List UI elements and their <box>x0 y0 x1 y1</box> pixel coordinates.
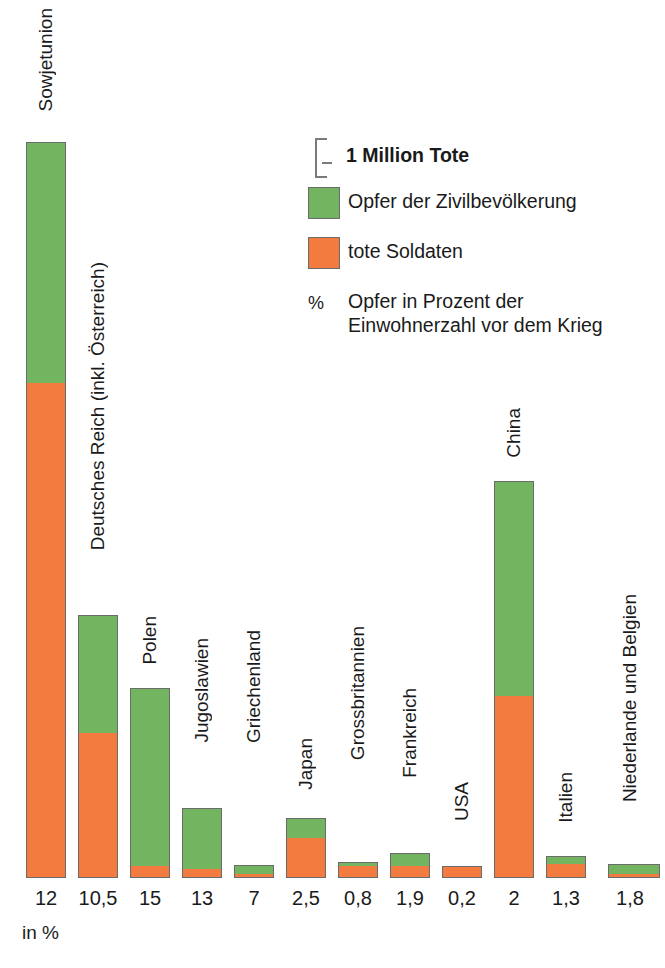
legend-label-civilian: Opfer der Zivilbevölkerung <box>348 189 577 213</box>
legend-swatch-soldier <box>308 237 340 269</box>
bar-segment-soldier <box>442 866 482 878</box>
legend: 1 Million Tote Opfer der Zivilbevölkerun… <box>308 133 658 343</box>
bar-deutsches-reich <box>78 615 118 878</box>
percent-label-frankreich: 1,9 <box>384 887 436 910</box>
category-label-grossbritannien: Grossbritannien <box>348 626 367 760</box>
bar-segment-civilian <box>608 864 660 874</box>
bar-segment-civilian <box>234 865 274 874</box>
bar-japan <box>286 818 326 878</box>
legend-label-percent-line1: Opfer in Prozent der <box>348 289 524 313</box>
percent-label-japan: 2,5 <box>280 887 332 910</box>
percent-label-niederlande-belgien: 1,8 <box>604 887 656 910</box>
bar-segment-soldier <box>130 866 170 878</box>
category-label-niederlande-belgien: Niederlande und Belgien <box>620 594 639 802</box>
legend-row-scale: 1 Million Tote <box>308 133 658 181</box>
bar-segment-civilian <box>286 818 326 838</box>
bar-china <box>494 481 534 878</box>
bar-segment-soldier <box>494 696 534 878</box>
category-label-usa: USA <box>452 782 471 821</box>
percent-label-polen: 15 <box>124 887 176 910</box>
legend-row-percent: % Opfer in Prozent der Einwohnerzahl vor… <box>308 287 658 343</box>
bar-jugoslawien <box>182 808 222 878</box>
percent-label-italien: 1,3 <box>540 887 592 910</box>
bar-italien <box>546 856 586 878</box>
bar-segment-civilian <box>78 615 118 733</box>
bar-niederlande-belgien <box>608 864 660 878</box>
bar-segment-soldier <box>608 874 660 878</box>
category-label-deutsches-reich: Deutsches Reich (inkl. Österreich) <box>88 262 107 550</box>
category-label-polen: Polen <box>140 616 159 665</box>
category-label-jugoslawien: Jugoslawien <box>192 638 211 743</box>
bar-segment-soldier <box>26 383 66 878</box>
legend-label-percent-line2: Einwohnerzahl vor dem Krieg <box>348 313 603 337</box>
bar-segment-soldier <box>338 866 378 878</box>
bar-segment-soldier <box>390 866 430 878</box>
category-label-japan: Japan <box>296 738 315 790</box>
bar-segment-soldier <box>546 864 586 878</box>
percent-label-deutsches-reich: 10,5 <box>72 887 124 910</box>
scale-bracket-mid-icon <box>322 162 332 164</box>
bar-segment-soldier <box>182 869 222 878</box>
bar-segment-civilian <box>546 856 586 864</box>
chart-canvas: Sowjetunion 12 Deutsches Reich (inkl. Ös… <box>0 0 665 968</box>
category-label-sowjetunion: Sowjetunion <box>36 8 55 112</box>
bar-segment-soldier <box>234 874 274 878</box>
bar-segment-civilian <box>494 481 534 696</box>
category-label-griechenland: Griechenland <box>244 630 263 743</box>
bar-grossbritannien <box>338 862 378 878</box>
bar-polen <box>130 688 170 878</box>
legend-label-scale: 1 Million Tote <box>346 143 469 167</box>
legend-row-soldier: tote Soldaten <box>308 235 658 287</box>
legend-row-civilian: Opfer der Zivilbevölkerung <box>308 181 658 235</box>
bar-sowjetunion <box>26 142 66 878</box>
percent-label-jugoslawien: 13 <box>176 887 228 910</box>
legend-label-soldier: tote Soldaten <box>348 239 463 263</box>
percent-label-china: 2 <box>488 887 540 910</box>
bar-usa <box>442 866 482 878</box>
bar-segment-soldier <box>78 733 118 878</box>
bar-segment-civilian <box>130 688 170 866</box>
category-label-italien: Italien <box>556 772 575 823</box>
category-label-frankreich: Frankreich <box>400 688 419 778</box>
percent-label-sowjetunion: 12 <box>20 887 72 910</box>
bar-segment-civilian <box>26 142 66 383</box>
bar-segment-civilian <box>182 808 222 869</box>
scale-bracket-icon <box>315 138 329 178</box>
legend-swatch-civilian <box>308 187 340 219</box>
percent-label-usa: 0,2 <box>436 887 488 910</box>
legend-percent-symbol: % <box>308 293 324 314</box>
axis-unit-label: in % <box>22 922 59 944</box>
bar-griechenland <box>234 865 274 878</box>
percent-label-griechenland: 7 <box>228 887 280 910</box>
percent-label-grossbritannien: 0,8 <box>332 887 384 910</box>
bar-segment-civilian <box>390 853 430 866</box>
category-label-china: China <box>504 408 523 458</box>
bar-segment-soldier <box>286 838 326 878</box>
bar-frankreich <box>390 853 430 878</box>
